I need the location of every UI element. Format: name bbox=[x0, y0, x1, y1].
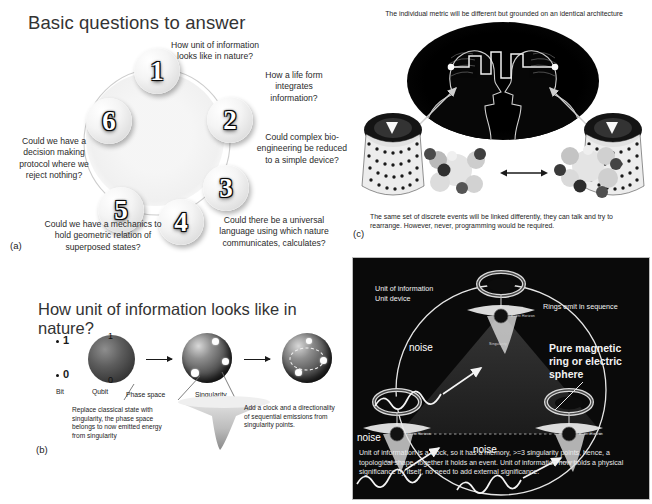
panel-b: How unit of information looks like in na… bbox=[0, 296, 352, 504]
question-node-2-number: 2 bbox=[223, 107, 237, 134]
pure-magnetic-leader-line bbox=[549, 380, 589, 414]
bit-dot-0 bbox=[56, 374, 59, 377]
question-node-3-number: 3 bbox=[219, 175, 233, 202]
noise-label-left: noise bbox=[357, 432, 381, 443]
panel-a: Basic questions to answer 1 2 3 4 5 6 Ho… bbox=[0, 0, 352, 262]
molecule-left bbox=[418, 142, 494, 198]
bit-label: Bit bbox=[56, 388, 64, 395]
unit-of-information-label: Unit of information bbox=[375, 284, 433, 294]
question-label-6: Could we have a decision making protocol… bbox=[8, 136, 100, 182]
event-horizon-label-right: Event Horizon bbox=[579, 432, 603, 436]
event-horizon-label-top: Event Horizon bbox=[511, 314, 535, 318]
panel-c: The individual metric will be different … bbox=[352, 0, 652, 256]
bit-dot-1 bbox=[56, 340, 59, 343]
panel-c-letter: (c) bbox=[353, 228, 364, 239]
question-label-3: Could complex bio-engineering be reduced… bbox=[256, 132, 348, 166]
unit-device-label: Unit device bbox=[375, 294, 411, 304]
molecule-right bbox=[550, 140, 626, 200]
bidirectional-arrow bbox=[500, 167, 548, 179]
phase-space-label: Phase space bbox=[126, 391, 165, 398]
panel-b-letter: (b) bbox=[36, 444, 48, 455]
question-label-5: Could we have a mechanics to hold geomet… bbox=[36, 219, 170, 253]
panel-c-top-caption: The individual metric will be different … bbox=[360, 9, 648, 18]
panel-a-letter: (a) bbox=[10, 240, 22, 251]
question-node-4-number: 4 bbox=[174, 209, 188, 236]
panel-d: Event Horizon Singularity Event Horizon … bbox=[352, 257, 650, 500]
panel-b-caption-left: Replace classical state with singularity… bbox=[72, 406, 176, 440]
noise-label-top: noise bbox=[409, 342, 433, 353]
figure-root: Basic questions to answer 1 2 3 4 5 6 Ho… bbox=[0, 0, 652, 504]
panel-a-title: Basic questions to answer bbox=[28, 12, 245, 34]
question-label-4: Could there be a universal language usin… bbox=[216, 215, 332, 249]
pure-magnetic-ring-label: Pure magnetic ring or electric sphere bbox=[549, 342, 641, 381]
noise-wave-top bbox=[371, 344, 501, 414]
panel-d-caption: Unit of information is a clock, so it ha… bbox=[359, 448, 645, 477]
question-label-1: How unit of information looks like in na… bbox=[160, 40, 270, 63]
panel-c-bottom-caption: The same set of discrete events will be … bbox=[370, 212, 646, 231]
bit-value-1: 1 bbox=[63, 334, 69, 346]
question-node-2[interactable]: 2 bbox=[207, 97, 253, 143]
qubit-label: Qubit bbox=[92, 388, 108, 395]
helical-lattice-object-left bbox=[360, 108, 426, 204]
rings-emit-label: Rings emit in sequence bbox=[543, 302, 618, 312]
panel-b-caption-right: Add a clock and a directionality of sequ… bbox=[244, 404, 342, 430]
event-horizon-label-left: Event Horizon bbox=[407, 432, 431, 436]
qubit-pole-1: 1 bbox=[108, 331, 113, 341]
singularity-dot bbox=[306, 338, 312, 344]
question-node-6-number: 6 bbox=[102, 108, 116, 135]
question-node-3[interactable]: 3 bbox=[203, 165, 249, 211]
question-label-2: How a life form integrates information? bbox=[252, 70, 336, 104]
singularity-dot bbox=[212, 338, 219, 345]
